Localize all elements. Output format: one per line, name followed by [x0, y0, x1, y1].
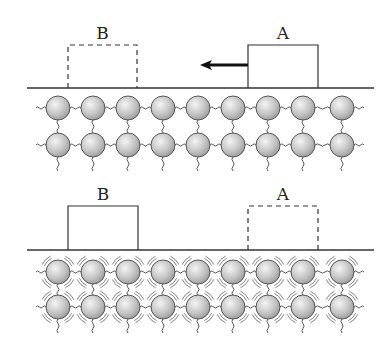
atom — [291, 96, 315, 120]
atom — [81, 295, 105, 319]
atom — [116, 260, 140, 284]
atom — [291, 133, 315, 157]
atom — [256, 260, 280, 284]
block-a-ghost: A — [248, 184, 318, 250]
atom — [186, 96, 210, 120]
atom — [330, 295, 354, 319]
atom-lattice — [36, 96, 364, 171]
atom — [81, 260, 105, 284]
block-b-ghost: B — [68, 23, 137, 88]
atom — [330, 260, 354, 284]
block-label: B — [96, 23, 109, 43]
atom — [116, 96, 140, 120]
panel-bottom: BA — [27, 184, 374, 333]
atom — [186, 133, 210, 157]
atom — [151, 295, 175, 319]
atom — [151, 260, 175, 284]
atom — [256, 133, 280, 157]
atom — [221, 260, 245, 284]
atom — [330, 96, 354, 120]
atom — [186, 295, 210, 319]
block-label: B — [97, 184, 110, 204]
atom — [151, 133, 175, 157]
motion-arrow-icon — [200, 60, 248, 70]
friction-lattice-diagram: BABA — [0, 0, 388, 361]
atom-lattice-vibrating — [36, 256, 364, 333]
atom — [256, 96, 280, 120]
atom — [330, 133, 354, 157]
atom — [221, 96, 245, 120]
atom — [151, 96, 175, 120]
block-b: B — [68, 184, 138, 250]
atom — [256, 295, 280, 319]
atom — [186, 260, 210, 284]
atom — [46, 260, 70, 284]
atom — [221, 133, 245, 157]
atom — [46, 133, 70, 157]
block-a: A — [248, 23, 318, 88]
atom — [291, 295, 315, 319]
block-label: A — [276, 23, 290, 43]
block-label: A — [276, 184, 290, 204]
atom — [291, 260, 315, 284]
atom — [81, 96, 105, 120]
atom — [116, 133, 140, 157]
atom — [81, 133, 105, 157]
atom — [221, 295, 245, 319]
atom — [46, 295, 70, 319]
atom — [46, 96, 70, 120]
panel-top: BA — [27, 23, 374, 171]
atom — [116, 295, 140, 319]
